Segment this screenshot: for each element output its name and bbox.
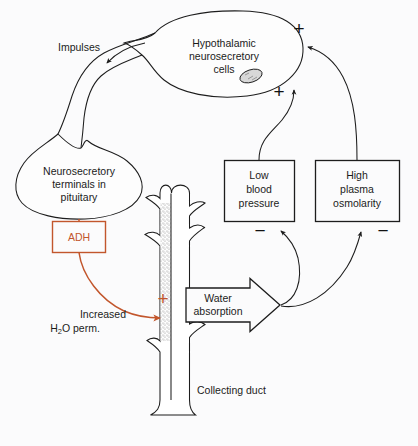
low-bp-label-line1: Low bbox=[249, 169, 269, 181]
hypothalamus-label-line3: cells bbox=[213, 63, 234, 75]
feedback-arrow-to-low-bp bbox=[281, 231, 300, 305]
high-osm-label-line1: High bbox=[346, 169, 368, 181]
impulses-label: Impulses bbox=[58, 41, 100, 53]
duct-stippled-membrane bbox=[161, 203, 172, 341]
axon-lower-edge bbox=[81, 55, 142, 148]
increased-perm-label-line2: H2O perm. bbox=[50, 322, 100, 336]
increased-perm-label-line1: Increased bbox=[80, 308, 126, 320]
adh-group: ADH bbox=[53, 219, 106, 253]
plus-sign-blood-pressure: + bbox=[273, 81, 284, 102]
water-absorption-label-line2: absorption bbox=[193, 305, 242, 317]
high-osm-label-line2: plasma bbox=[340, 183, 374, 195]
low-bp-label-line2: blood bbox=[246, 183, 272, 195]
hypothalamus-label-line2: neurosecretory bbox=[189, 50, 260, 62]
high-plasma-osmolarity-group: High plasma osmolarity bbox=[316, 161, 400, 222]
adh-permeability-group: + Increased H2O perm. bbox=[50, 253, 168, 336]
pituitary-terminals-group: Neurosecretory terminals in pituitary bbox=[16, 134, 142, 219]
water-absorption-label-line1: Water bbox=[204, 292, 232, 304]
minus-sign-osmolarity: − bbox=[377, 220, 388, 241]
negative-feedback-group: − − bbox=[254, 220, 388, 307]
low-bp-label-line3: pressure bbox=[239, 197, 280, 209]
stimulus-arrow-from-osmolarity bbox=[308, 47, 357, 160]
adh-label: ADH bbox=[68, 231, 90, 243]
h2o-rest: O perm. bbox=[62, 322, 100, 334]
adh-feedback-diagram: Collecting duct Hypothalamic neurosecret… bbox=[0, 0, 418, 446]
pituitary-label-line3: pituitary bbox=[61, 191, 99, 203]
high-osm-label-line3: osmolarity bbox=[333, 197, 382, 209]
collecting-duct-label: Collecting duct bbox=[197, 384, 266, 396]
hypothalamus-label-line1: Hypothalamic bbox=[192, 37, 256, 49]
plus-sign-osmolarity: + bbox=[293, 18, 304, 39]
pituitary-label-line2: terminals in bbox=[52, 178, 106, 190]
pituitary-label-line1: Neurosecretory bbox=[43, 165, 116, 177]
h2o-h: H bbox=[50, 322, 58, 334]
low-blood-pressure-group: Low blood pressure bbox=[225, 161, 295, 222]
minus-sign-blood-pressure: − bbox=[254, 220, 265, 241]
plus-sign-permeability: + bbox=[157, 288, 168, 309]
